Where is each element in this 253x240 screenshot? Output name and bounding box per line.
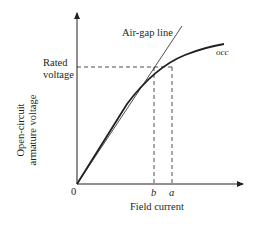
occ-label: occ	[216, 46, 229, 58]
airgap-label: Air-gap line	[122, 27, 173, 39]
y-axis-label-line1: Open-circuit	[15, 75, 27, 185]
occ-curve	[77, 44, 224, 184]
origin-label: 0	[71, 186, 76, 198]
rated-voltage-label-1: Rated	[43, 57, 68, 69]
tick-a-label: a	[169, 187, 174, 199]
tick-b-label: b	[151, 187, 156, 199]
x-axis-label: Field current	[130, 201, 184, 213]
rated-voltage-label-2: voltage	[43, 69, 74, 81]
y-axis-label-line2: armature voltage	[27, 75, 39, 185]
y-axis-label: Open-circuit armature voltage	[15, 75, 39, 185]
